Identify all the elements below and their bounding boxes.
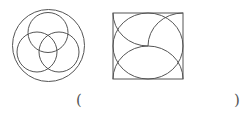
answer-open-paren: (: [76, 93, 82, 108]
figure-square: [113, 13, 183, 79]
arc-bottom-right: [148, 46, 183, 79]
arc-top-left: [113, 13, 148, 46]
figure-circles: [13, 10, 85, 82]
arc-bottom-left: [113, 46, 148, 79]
answer-close-paren: ): [234, 93, 240, 108]
answer-blank[interactable]: [86, 93, 231, 109]
outer-circle: [13, 10, 85, 82]
arc-top-right: [148, 13, 183, 46]
